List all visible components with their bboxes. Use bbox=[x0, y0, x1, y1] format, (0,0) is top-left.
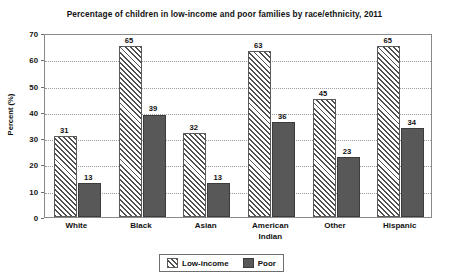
y-tick-label: 40 bbox=[4, 108, 38, 117]
x-axis-label-line: Indian bbox=[238, 232, 303, 243]
y-tick-mark bbox=[41, 218, 44, 219]
x-axis-label-line: Black bbox=[109, 221, 174, 232]
legend-entry-low-income[interactable]: Low-income bbox=[167, 258, 229, 268]
legend-entry-poor[interactable]: Poor bbox=[243, 258, 276, 268]
y-tick-label: 0 bbox=[4, 214, 38, 223]
x-axis-label-american-indian: AmericanIndian bbox=[238, 221, 303, 242]
y-tick-label: 10 bbox=[4, 187, 38, 196]
bar-poor-asian[interactable] bbox=[207, 183, 230, 217]
bar-value-label: 63 bbox=[247, 41, 270, 50]
x-axis-label-other: Other bbox=[303, 221, 368, 232]
x-axis-label-asian: Asian bbox=[173, 221, 238, 232]
chart-title: Percentage of children in low-income and… bbox=[0, 9, 449, 19]
y-tick-label: 50 bbox=[4, 82, 38, 91]
bar-value-label: 23 bbox=[336, 147, 359, 156]
bar-value-label: 32 bbox=[182, 123, 205, 132]
bar-low-income-american-indian[interactable] bbox=[248, 51, 271, 217]
bar-value-label: 65 bbox=[118, 36, 141, 45]
x-axis-label-line: Hispanic bbox=[367, 221, 432, 232]
x-axis-label-white: White bbox=[44, 221, 109, 232]
bar-poor-other[interactable] bbox=[337, 157, 360, 217]
solid-swatch-icon bbox=[243, 258, 254, 268]
y-tick-label: 30 bbox=[4, 135, 38, 144]
chart-legend: Low-incomePoor bbox=[159, 254, 284, 272]
x-axis-label-line: Asian bbox=[173, 221, 238, 232]
bar-poor-american-indian[interactable] bbox=[272, 122, 295, 217]
x-axis-label-line: White bbox=[44, 221, 109, 232]
x-axis-label-black: Black bbox=[109, 221, 174, 232]
gridline bbox=[45, 114, 431, 115]
bar-low-income-hispanic[interactable] bbox=[377, 46, 400, 217]
legend-label: Low-income bbox=[182, 259, 229, 268]
gridline bbox=[45, 193, 431, 194]
bar-low-income-white[interactable] bbox=[54, 136, 77, 217]
bar-value-label: 45 bbox=[312, 89, 335, 98]
x-axis-label-line: Other bbox=[303, 221, 368, 232]
bar-poor-black[interactable] bbox=[143, 115, 166, 218]
x-axis-label-hispanic: Hispanic bbox=[367, 221, 432, 232]
bar-value-label: 36 bbox=[271, 112, 294, 121]
y-tick-label: 70 bbox=[4, 30, 38, 39]
bar-value-label: 13 bbox=[206, 173, 229, 182]
bar-value-label: 34 bbox=[400, 118, 423, 127]
gridline bbox=[45, 61, 431, 62]
bar-poor-white[interactable] bbox=[78, 183, 101, 217]
plot-area bbox=[44, 34, 432, 218]
bar-low-income-other[interactable] bbox=[313, 99, 336, 217]
bar-value-label: 65 bbox=[376, 36, 399, 45]
x-axis-label-line: American bbox=[238, 221, 303, 232]
bar-low-income-asian[interactable] bbox=[183, 133, 206, 217]
legend-label: Poor bbox=[258, 259, 276, 268]
hatched-swatch-icon bbox=[167, 258, 178, 268]
bar-low-income-black[interactable] bbox=[119, 46, 142, 217]
bar-value-label: 31 bbox=[53, 126, 76, 135]
y-tick-label: 60 bbox=[4, 56, 38, 65]
bar-value-label: 13 bbox=[77, 173, 100, 182]
y-tick-label: 20 bbox=[4, 161, 38, 170]
gridline bbox=[45, 140, 431, 141]
gridline bbox=[45, 88, 431, 89]
bar-poor-hispanic[interactable] bbox=[401, 128, 424, 217]
gridline bbox=[45, 166, 431, 167]
bar-value-label: 39 bbox=[142, 104, 165, 113]
